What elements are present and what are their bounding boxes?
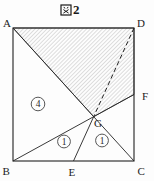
region-ratio-1-right: 1 [96, 134, 109, 147]
region-ratio-4: 4 [31, 97, 45, 111]
label-vertex-b: B [3, 165, 10, 177]
label-point-f: F [142, 90, 148, 102]
region-ratio-1-right-digit: 1 [100, 136, 105, 146]
region-ratio-4-digit: 4 [36, 99, 41, 109]
figure-2-diagram: 2 A D B C E F G 4 [0, 0, 154, 181]
label-point-e: E [69, 166, 76, 178]
geometry-canvas: A D B C E F G 4 1 1 [0, 0, 154, 181]
region-ratio-1-left-digit: 1 [62, 137, 67, 147]
label-vertex-a: A [3, 17, 11, 29]
region-ratio-1-left: 1 [58, 135, 71, 148]
label-vertex-d: D [137, 17, 145, 29]
segment-ge [74, 117, 94, 161]
label-point-g: G [94, 117, 102, 129]
label-vertex-c: C [138, 165, 145, 177]
